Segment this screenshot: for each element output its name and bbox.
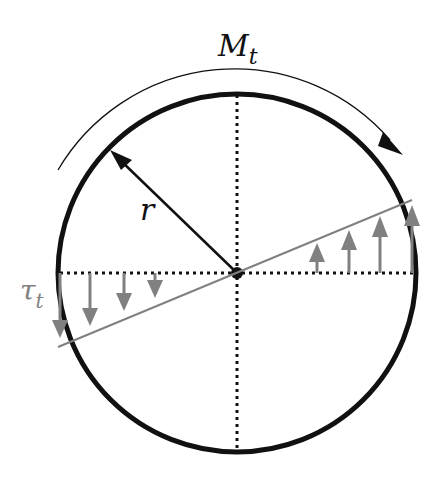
radius-label: r <box>140 192 156 227</box>
radius-arrow <box>118 158 237 273</box>
stress-arrows-right <box>309 205 420 273</box>
moment-arrowhead-icon <box>378 132 403 155</box>
moment-arc-arrow <box>58 69 390 170</box>
moment-label: Mt <box>217 28 258 69</box>
torsion-diagram: Mt r τt <box>0 0 443 483</box>
shear-stress-label: τt <box>20 274 45 313</box>
